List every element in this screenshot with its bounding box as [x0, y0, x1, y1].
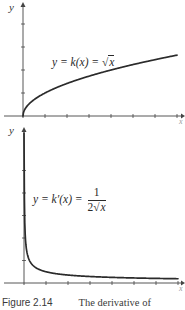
y-axis-label: y: [9, 125, 14, 136]
figure-caption-text: The derivative of: [79, 297, 151, 308]
equation-derivative: y = k′(x) = 12√x: [33, 187, 106, 213]
fraction-numerator: 1: [88, 187, 106, 201]
equation-sqrt: y = k(x) = √x: [52, 57, 114, 69]
sqrt-symbol: √: [93, 201, 99, 213]
fraction-denominator: 2√x: [88, 201, 106, 214]
denominator-radicand: x: [100, 200, 106, 213]
graph-derivative: y x y = k′(x) = 12√x: [0, 125, 185, 290]
y-axis-label: y: [9, 2, 14, 13]
x-axis-label: x: [179, 285, 183, 293]
equation-sqrt-lhs: y = k(x) =: [52, 56, 102, 68]
y-axis-arrow-icon: [21, 2, 26, 7]
graph-sqrt: y x y = k(x) = √x: [0, 0, 185, 125]
y-axis-arrow-icon: [22, 127, 27, 132]
figure-number: Figure 2.14: [2, 297, 53, 308]
equation-sqrt-radicand: x: [108, 55, 114, 68]
fraction: 12√x: [88, 187, 106, 213]
figure-caption: Figure 2.14The derivative of: [2, 297, 151, 308]
equation-derivative-lhs: y = k′(x) =: [33, 193, 86, 205]
